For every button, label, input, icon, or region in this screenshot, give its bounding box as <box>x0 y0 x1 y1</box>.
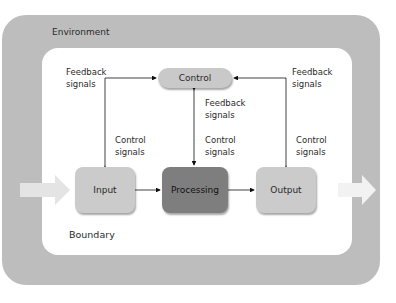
center-feedback-label: Feedbacksignals <box>205 97 245 121</box>
control-label: Control <box>179 73 212 83</box>
left-control-label: Controlsignals <box>115 134 146 158</box>
left-feedback-label: Feedbacksignals <box>66 66 106 90</box>
center-control-label: Controlsignals <box>205 134 236 158</box>
input-label: Input <box>93 185 116 195</box>
connector-lines <box>0 0 396 303</box>
right-feedback-label: Feedbacksignals <box>292 66 332 90</box>
control-node: Control <box>158 68 232 88</box>
output-label: Output <box>270 185 301 195</box>
output-node: Output <box>256 167 316 213</box>
input-flow-arrow <box>20 175 70 205</box>
output-flow-arrow <box>338 175 376 205</box>
processing-label: Processing <box>171 185 219 195</box>
right-control-label: Controlsignals <box>296 134 327 158</box>
processing-node: Processing <box>162 167 228 213</box>
environment-label: Environment <box>52 26 109 38</box>
input-node: Input <box>75 167 135 213</box>
boundary-label: Boundary <box>69 229 115 241</box>
